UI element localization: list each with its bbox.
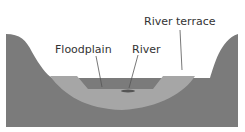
bedrock <box>6 34 238 127</box>
river-channel <box>121 90 135 93</box>
river-terrace-label: River terrace <box>144 15 215 28</box>
floodplain-label: Floodplain <box>55 43 112 56</box>
river-label: River <box>132 43 161 56</box>
terrace-leader <box>180 30 182 70</box>
